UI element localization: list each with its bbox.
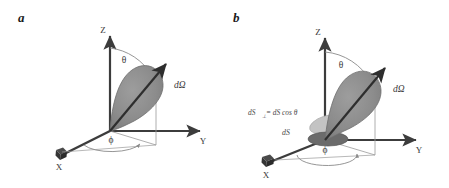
phi-arc-b (297, 154, 357, 166)
panel-b-scene: Z Y X θ ϕ (225, 0, 449, 188)
panel-a: a (0, 0, 225, 188)
x-axis-cube-marker-b (262, 155, 275, 168)
panel-b-label: b (233, 10, 240, 26)
y-axis-label-b: Y (416, 145, 423, 155)
panel-a-label: a (18, 10, 25, 26)
x-axis-label-b: X (263, 170, 270, 180)
z-axis-label-a: Z (100, 25, 106, 35)
projected-area-prefix-b: dS (248, 108, 256, 117)
solid-angle-label-b: dΩ (393, 84, 405, 94)
projected-area-equation-b: = dS cos θ (266, 108, 298, 117)
theta-label-a: θ (122, 55, 127, 65)
phi-arc-a (84, 144, 140, 152)
x-axis-cube-marker-a (56, 148, 68, 161)
figure-solid-angle-diagram: a (0, 0, 449, 188)
phi-label-a: ϕ (108, 135, 113, 145)
x-axis-label-a: X (56, 162, 63, 172)
solid-angle-label-a: dΩ (174, 80, 186, 90)
z-axis-label-b: Z (315, 27, 321, 37)
panel-a-scene: Z Y X θ ϕ (0, 0, 225, 188)
theta-label-b: θ (339, 60, 344, 70)
projected-area-formula-b: dS ⊥ = dS cos θ (248, 108, 298, 119)
y-axis-label-a: Y (200, 136, 207, 146)
panel-b: b (225, 0, 449, 188)
surface-area-label-b: dS (282, 128, 290, 137)
azimuth-projection-line-a (110, 131, 156, 145)
xy-plane-edge-b (275, 155, 375, 160)
phi-label-b: ϕ (322, 145, 327, 155)
